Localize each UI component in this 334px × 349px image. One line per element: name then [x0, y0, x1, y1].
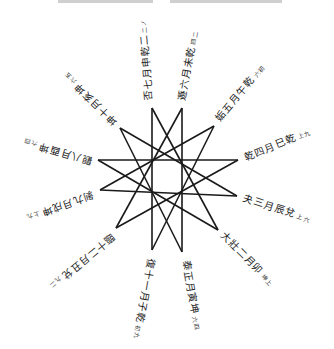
twelve-pointed-star [98, 108, 238, 252]
label-note: 上六 [296, 213, 311, 224]
label-note: 初九 [132, 325, 141, 340]
label-note: 二ノ [139, 19, 147, 34]
label-note: 六四 [23, 138, 38, 149]
label-note: 四二 [189, 30, 198, 45]
star-edge [100, 126, 214, 190]
label-note: 六四 [191, 316, 200, 331]
star-edge [100, 190, 237, 196]
star-diagram [0, 0, 334, 349]
